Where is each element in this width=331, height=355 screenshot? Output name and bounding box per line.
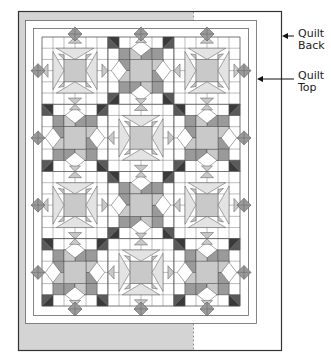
- quilt-blocks: [31, 27, 251, 316]
- label-quilt-back-line2: Back: [298, 40, 325, 52]
- label-quilt-top: Quilt Top: [298, 70, 324, 94]
- quilt-illustration: [0, 0, 331, 355]
- arrow-quilt-back: [282, 33, 294, 39]
- label-quilt-top-line2: Top: [298, 82, 324, 94]
- quilt-diagram: Quilt Back Quilt Top: [0, 0, 331, 355]
- label-quilt-back: Quilt Back: [298, 28, 325, 52]
- quilt-top: [26, 21, 257, 324]
